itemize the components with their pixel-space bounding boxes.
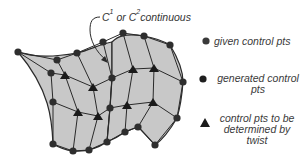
legend-twist-label: control pts to be determined by twist [214,113,300,146]
legend-generated-label: generated control pts [211,73,305,95]
legend-generated-circle-icon [199,75,206,82]
legend-given-label: given control pts [214,36,290,47]
legend-triangle-icon [200,118,210,127]
continuity-annotation: C1 or C2continuous [102,11,191,23]
annotation-or: or [114,11,129,23]
left-patch-surface [18,42,112,151]
annotation-c1: C [102,11,110,23]
annotation-sup1: 1 [110,8,114,15]
annotation-sup2: 2 [136,8,140,15]
legend-twist-line3: twist [214,135,300,146]
legend-generated-line2: pts [211,84,305,95]
annotation-continuous: continuous [140,11,191,23]
legend-given-circle-icon [202,37,209,44]
right-patch-surface [107,35,183,145]
